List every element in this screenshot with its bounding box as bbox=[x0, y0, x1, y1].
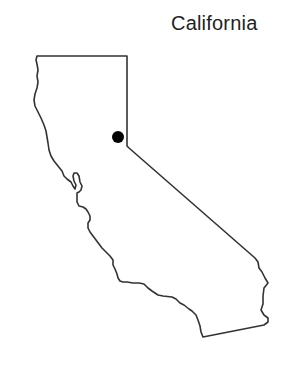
california-map bbox=[0, 0, 295, 384]
location-marker-dot[interactable] bbox=[112, 131, 124, 143]
state-outline bbox=[34, 56, 268, 337]
